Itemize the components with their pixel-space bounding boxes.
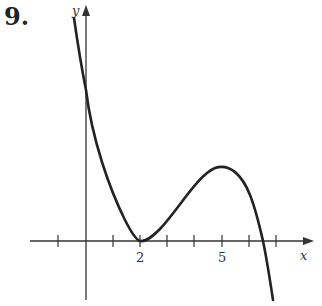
x-tick-label-5: 5 [218,250,226,265]
x-axis-label: x [300,248,308,263]
function-curve [74,18,273,300]
y-axis-arrow-icon [82,5,90,16]
function-graph: 2 5 x y [0,0,322,306]
x-axis-arrow-icon [303,237,314,245]
y-axis-label: y [71,3,80,18]
x-tick-label-2: 2 [136,250,144,265]
